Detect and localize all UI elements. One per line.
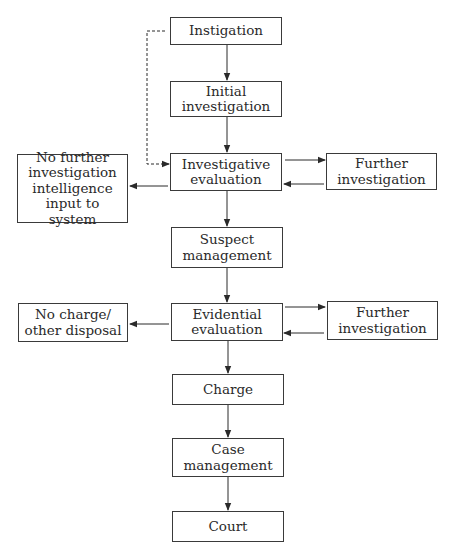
node-charge: Charge — [172, 374, 284, 405]
node-investigative-evaluation: Investigative evaluation — [170, 153, 282, 191]
node-initial-investigation: Initial investigation — [170, 81, 282, 117]
node-no-charge: No charge/ other disposal — [18, 303, 128, 342]
node-court: Court — [172, 511, 284, 542]
node-label: Charge — [203, 382, 253, 398]
node-instigation: Instigation — [170, 17, 282, 45]
node-label: Case management — [183, 442, 272, 473]
node-case-management: Case management — [172, 438, 284, 477]
node-label: Investigative evaluation — [182, 157, 270, 188]
node-label: Suspect management — [182, 232, 271, 263]
node-no-further-investigation: No further investigation intelligence in… — [17, 154, 128, 223]
node-label: Instigation — [189, 23, 263, 39]
node-label: Further investigation — [337, 156, 426, 187]
node-label: Further investigation — [338, 305, 427, 336]
node-further-investigation-1: Further investigation — [326, 153, 437, 190]
flowchart-canvas: Instigation Initial investigation Invest… — [0, 0, 455, 556]
node-further-investigation-2: Further investigation — [327, 301, 438, 340]
node-label: No charge/ other disposal — [25, 307, 122, 338]
dashed-arrow-instigation-to-evaluation — [147, 31, 169, 164]
node-evidential-evaluation: Evidential evaluation — [171, 303, 283, 341]
node-label: No further investigation intelligence in… — [22, 150, 123, 228]
node-label: Evidential evaluation — [191, 307, 262, 338]
node-label: Initial investigation — [182, 84, 271, 115]
node-label: Court — [208, 519, 247, 535]
node-suspect-management: Suspect management — [171, 227, 283, 268]
